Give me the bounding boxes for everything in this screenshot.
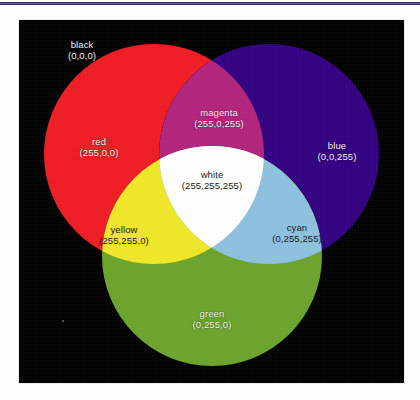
venn-diagram-svg — [19, 20, 404, 383]
scan-speck — [62, 320, 64, 322]
top-rule-highlight — [0, 3, 420, 4]
top-rule-divider — [0, 2, 420, 5]
page-canvas: black (0,0,0) red (255,0,0) blue (0,0,25… — [0, 0, 420, 400]
venn-diagram-figure: black (0,0,0) red (255,0,0) blue (0,0,25… — [19, 20, 404, 383]
